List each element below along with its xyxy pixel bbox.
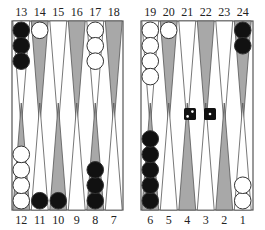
point-label-22: 22 xyxy=(200,5,212,19)
black-checker[interactable] xyxy=(31,192,48,209)
point-label-1: 1 xyxy=(240,213,246,227)
point-label-12: 12 xyxy=(15,213,27,227)
point-label-19: 19 xyxy=(144,5,156,19)
black-checker[interactable] xyxy=(87,162,104,179)
point-label-11: 11 xyxy=(34,213,46,227)
point-label-16: 16 xyxy=(71,5,83,19)
white-checker[interactable] xyxy=(142,37,159,54)
point-label-8: 8 xyxy=(92,213,98,227)
black-checker[interactable] xyxy=(234,22,251,39)
white-checker[interactable] xyxy=(142,22,159,39)
top-point-labels: 131415161718192021222324 xyxy=(15,5,249,19)
die-pip-icon xyxy=(186,115,189,118)
black-checker[interactable] xyxy=(13,22,30,39)
white-checker[interactable] xyxy=(160,22,177,39)
white-checker[interactable] xyxy=(87,37,104,54)
black-checker[interactable] xyxy=(142,146,159,163)
point-label-6: 6 xyxy=(147,213,153,227)
black-checker[interactable] xyxy=(142,192,159,209)
black-checker[interactable] xyxy=(142,162,159,179)
point-label-15: 15 xyxy=(52,5,64,19)
die-pip-icon xyxy=(209,113,212,116)
white-checker[interactable] xyxy=(142,53,159,70)
white-checker[interactable] xyxy=(234,192,251,209)
point-label-23: 23 xyxy=(218,5,230,19)
white-checker[interactable] xyxy=(13,192,30,209)
point-label-5: 5 xyxy=(166,213,172,227)
point-label-2: 2 xyxy=(221,213,227,227)
black-checker[interactable] xyxy=(50,192,67,209)
black-checker[interactable] xyxy=(13,53,30,70)
point-label-3: 3 xyxy=(203,213,209,227)
die-2[interactable] xyxy=(204,108,216,120)
point-label-18: 18 xyxy=(108,5,120,19)
point-label-10: 10 xyxy=(52,213,64,227)
point-label-14: 14 xyxy=(34,5,46,19)
white-checker[interactable] xyxy=(87,22,104,39)
white-checker[interactable] xyxy=(13,177,30,194)
point-label-4: 4 xyxy=(184,213,190,227)
black-checker[interactable] xyxy=(87,192,104,209)
white-checker[interactable] xyxy=(31,22,48,39)
point-label-21: 21 xyxy=(181,5,193,19)
black-checker[interactable] xyxy=(87,177,104,194)
die-1[interactable] xyxy=(184,108,196,120)
white-checker[interactable] xyxy=(87,53,104,70)
white-checker[interactable] xyxy=(234,177,251,194)
die-pip-icon xyxy=(191,110,194,113)
point-label-24: 24 xyxy=(237,5,249,19)
black-checker[interactable] xyxy=(13,37,30,54)
point-label-20: 20 xyxy=(163,5,175,19)
point-label-9: 9 xyxy=(74,213,80,227)
black-checker[interactable] xyxy=(142,177,159,194)
point-label-7: 7 xyxy=(111,213,117,227)
white-checker[interactable] xyxy=(13,162,30,179)
backgammon-board: 131415161718192021222324 121110987654321 xyxy=(0,0,265,230)
black-checker[interactable] xyxy=(234,37,251,54)
die-face xyxy=(184,108,196,120)
bottom-point-labels: 121110987654321 xyxy=(15,213,246,227)
black-checker[interactable] xyxy=(142,131,159,148)
white-checker[interactable] xyxy=(142,68,159,85)
point-label-17: 17 xyxy=(89,5,101,19)
white-checker[interactable] xyxy=(13,146,30,163)
point-label-13: 13 xyxy=(15,5,27,19)
